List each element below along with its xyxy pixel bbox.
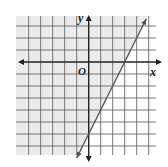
y-axis-label: y: [76, 11, 84, 25]
coordinate-graph: y x O: [0, 0, 168, 167]
x-axis-label: x: [149, 65, 156, 79]
origin-label: O: [78, 65, 86, 77]
